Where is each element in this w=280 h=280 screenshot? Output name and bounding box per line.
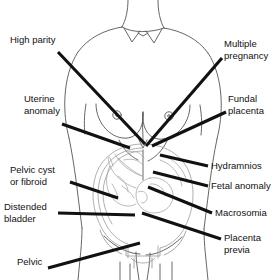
label-placenta-previa-line1: Placenta — [224, 232, 261, 244]
label-pelvic-cyst-line2: or fibroid — [10, 176, 55, 188]
label-placenta-previa: Placenta previa — [224, 232, 261, 255]
label-distended-bladder-line2: bladder — [4, 213, 47, 225]
label-macrosomia: Macrosomia — [215, 207, 267, 219]
label-multiple-pregnancy-line1: Multiple — [224, 38, 268, 50]
label-fundal-placenta-line1: Fundal — [228, 93, 264, 105]
label-uterine-anomaly-line2: anomaly — [24, 105, 60, 117]
label-fetal-anomaly: Fetal anomaly — [211, 180, 271, 192]
label-multiple-pregnancy-line2: pregnancy — [224, 50, 268, 62]
fetus-outline — [107, 151, 187, 213]
leader-distended-bladder — [58, 213, 135, 215]
diagram-canvas: High parity Uterine anomaly Pelvic cyst … — [0, 0, 280, 280]
leader-lines — [48, 52, 226, 268]
label-fundal-placenta-line2: placenta — [228, 105, 264, 117]
label-placenta-previa-line2: previa — [224, 244, 261, 256]
label-multiple-pregnancy: Multiple pregnancy — [224, 38, 268, 61]
leader-uterine-anomaly — [62, 124, 130, 148]
label-distended-bladder: Distended bladder — [4, 201, 47, 224]
leader-placenta-previa — [142, 213, 221, 239]
leader-hydramnios — [160, 155, 208, 166]
label-fundal-placenta: Fundal placenta — [228, 93, 264, 116]
label-high-parity: High parity — [10, 34, 55, 46]
label-uterine-anomaly-line1: Uterine — [24, 93, 60, 105]
leader-fundal-placenta — [152, 112, 226, 146]
label-uterine-anomaly: Uterine anomaly — [24, 93, 60, 116]
leader-high-parity — [58, 52, 145, 144]
leader-macrosomia — [148, 187, 212, 213]
label-distended-bladder-line1: Distended — [4, 201, 47, 213]
label-pelvic-cyst-or-fibroid: Pelvic cyst or fibroid — [10, 164, 55, 187]
label-hydramnios: Hydramnios — [211, 160, 262, 172]
label-pelvic-cyst-line1: Pelvic cyst — [10, 164, 55, 176]
label-pelvic: Pelvic — [17, 256, 42, 268]
